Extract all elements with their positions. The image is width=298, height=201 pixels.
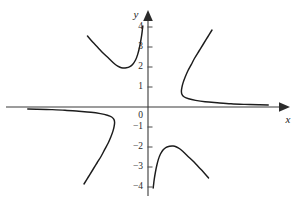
axes-group [6,10,290,196]
y-tick-label: 1 [138,81,143,91]
y-axis-label: y [133,8,139,20]
curve-lower-left-branch [28,109,115,184]
curve-upper-right-branch [181,30,268,105]
y-tick-label: 2 [138,61,143,71]
y-tick-label: −2 [133,141,143,151]
tick-label-group: 43210−1−2−3−4 [133,21,143,191]
y-tick-label: −4 [133,181,143,191]
y-axis-arrow-icon [143,10,153,21]
curve-lower-middle-branch [153,146,208,188]
y-tick-label: 0 [138,110,143,120]
y-tick-label: 4 [138,21,143,31]
x-axis-arrow-icon [279,102,290,112]
x-axis-label: x [285,113,291,125]
graph-figure: 43210−1−2−3−4 y x [0,0,298,201]
y-tick-label: −3 [133,161,143,171]
curve-upper-left-branch [87,26,142,68]
coordinate-plot: 43210−1−2−3−4 y x [0,0,298,201]
y-tick-label: 3 [138,41,143,51]
y-tick-label: −1 [133,121,143,131]
